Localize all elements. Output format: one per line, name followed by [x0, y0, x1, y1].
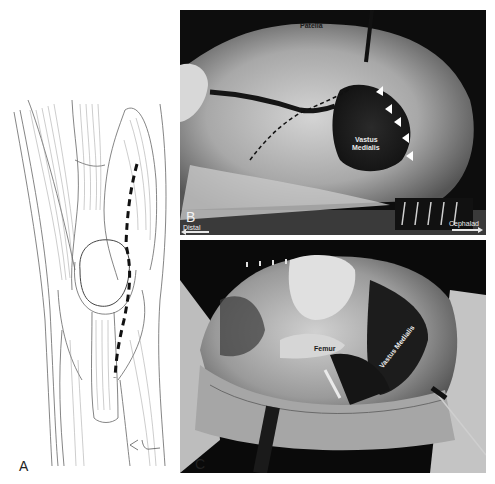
- leg-outline-left-inner: [20, 110, 58, 466]
- quad-tendon-left: [72, 100, 79, 290]
- patellar-tendon: [92, 312, 119, 423]
- vastus-medialis-outline: [125, 108, 157, 270]
- leg-outline-left: [14, 112, 52, 466]
- surgical-photo-b: [180, 10, 486, 235]
- panel-c-photograph: Femur Vastus Medialis C: [180, 240, 486, 473]
- panel-letter-c: C: [195, 456, 205, 472]
- label-medialis: Medialis: [352, 144, 380, 152]
- panel-b-photograph: Patella Vastus Medialis B Distal Cephala…: [180, 10, 486, 235]
- patella-outline: [80, 240, 130, 307]
- quad-tendon-right: [104, 110, 125, 280]
- leg-outline-right: [159, 104, 166, 466]
- direction-label-cephalad: Cephalad: [449, 220, 479, 227]
- knee-anatomy-drawing: [0, 0, 178, 484]
- panel-a-illustration: A: [0, 0, 178, 484]
- panel-letter-b: B: [186, 209, 195, 225]
- arrow-distal-shaft: [185, 231, 209, 233]
- arrow-right-icon: [478, 227, 483, 233]
- arrow-cephalad-shaft: [452, 229, 478, 231]
- label-vastus: Vastus: [355, 136, 378, 144]
- tibialis-edge: [60, 330, 64, 466]
- gastroc-edge: [120, 380, 130, 466]
- label-femur: Femur: [314, 345, 335, 353]
- surgical-photo-c: [180, 240, 486, 473]
- signature-mark: [130, 440, 160, 450]
- label-patella: Patella: [300, 22, 323, 30]
- incision-dashed-line: [115, 164, 137, 378]
- panel-letter-a: A: [19, 458, 28, 474]
